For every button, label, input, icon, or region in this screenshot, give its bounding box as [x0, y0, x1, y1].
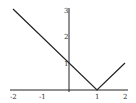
y-tick-label: 2 — [64, 33, 68, 41]
y-tick-label: 3 — [64, 7, 68, 15]
x-tick-label: 1 — [95, 93, 99, 101]
y-tick-label: 1 — [64, 60, 68, 68]
x-tick-label: -2 — [10, 93, 17, 101]
x-tick-label: -1 — [39, 93, 46, 101]
x-tick-label: 2 — [123, 93, 127, 101]
plot: -2 -1 1 2 1 2 3 — [0, 0, 136, 103]
